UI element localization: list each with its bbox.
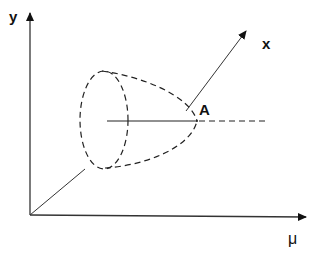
- mu-axis-label: μ: [288, 231, 297, 247]
- cross-section-ellipse: [80, 71, 128, 169]
- x-axis-lower-segment: [30, 169, 85, 215]
- envelope-lower-curve: [105, 121, 197, 168]
- y-axis-label: y: [9, 9, 17, 24]
- diagram-canvas: y x μ A: [0, 0, 317, 253]
- x-axis-label: x: [262, 36, 270, 51]
- x-axis-upper-segment: [186, 31, 246, 111]
- point-a-label: A: [199, 102, 210, 117]
- mu-axis: [30, 215, 306, 217]
- point-a: [196, 120, 198, 122]
